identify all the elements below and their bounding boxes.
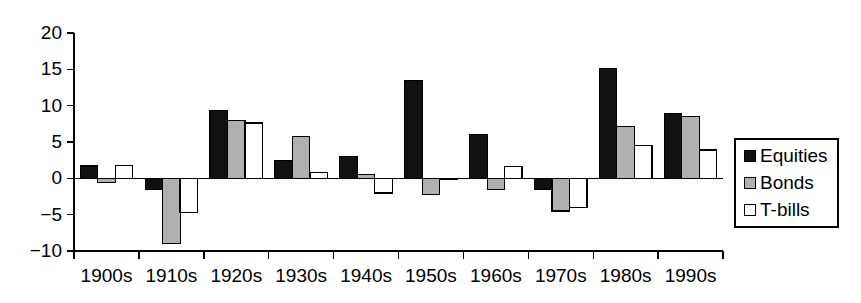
bar-t-bills-1930s	[310, 173, 328, 179]
bar-equities-1960s	[470, 135, 488, 179]
bar-equities-1920s	[210, 111, 228, 179]
y-axis-tick-label: 15	[41, 58, 62, 79]
legend-label-bonds: Bonds	[760, 172, 814, 193]
y-axis-tick-label: 20	[41, 22, 62, 43]
bar-t-bills-1970s	[570, 178, 588, 207]
bar-bonds-1930s	[292, 136, 310, 178]
bar-bonds-1910s	[163, 178, 181, 243]
bar-equities-1910s	[145, 178, 163, 189]
legend-swatch-bonds	[744, 178, 755, 189]
legend-label-equities: Equities	[760, 145, 828, 166]
y-axis-tick-label: −5	[40, 204, 62, 225]
legend-swatch-equities	[744, 151, 755, 162]
bars-layer	[80, 69, 717, 244]
bar-bonds-1940s	[357, 175, 375, 179]
x-axis-tick-label: 1900s	[81, 265, 133, 286]
bar-equities-1900s	[80, 166, 98, 178]
y-axis-tick-label: 0	[51, 167, 62, 188]
bar-equities-1970s	[535, 178, 553, 189]
bar-bonds-1950s	[422, 178, 440, 194]
legend-swatch-t-bills	[744, 205, 755, 216]
x-axis-tick-label: 1930s	[275, 265, 327, 286]
bar-bonds-1980s	[617, 127, 635, 179]
bar-equities-1950s	[405, 80, 423, 178]
y-axis-tick-label: −10	[30, 240, 62, 261]
x-axis-tick-label: 1960s	[470, 265, 522, 286]
x-axis-tick-label: 1980s	[600, 265, 652, 286]
chart-canvas: 20151050−5−10 1900s1910s1920s1930s1940s1…	[0, 0, 861, 303]
bar-t-bills-1940s	[375, 178, 393, 193]
bar-equities-1930s	[275, 161, 293, 178]
x-axis-tick-label: 1970s	[535, 265, 587, 286]
bar-chart-container: 20151050−5−10 1900s1910s1920s1930s1940s1…	[0, 0, 861, 303]
bar-t-bills-1990s	[699, 150, 717, 178]
bar-t-bills-1910s	[180, 178, 198, 212]
bar-equities-1940s	[340, 157, 358, 179]
bar-t-bills-1950s	[440, 178, 458, 179]
bar-bonds-1970s	[552, 178, 570, 211]
bar-t-bills-1960s	[505, 167, 522, 179]
y-axis-tick-label: 5	[51, 131, 62, 152]
x-axis-tick-label: 1920s	[210, 265, 262, 286]
x-axis: 1900s1910s1920s1930s1940s1950s1960s1970s…	[74, 251, 723, 286]
bar-equities-1990s	[664, 114, 682, 179]
bar-bonds-1960s	[487, 178, 505, 189]
chart-legend: EquitiesBondsT-bills	[735, 139, 838, 227]
bar-t-bills-1980s	[634, 146, 652, 179]
x-axis-tick-label: 1940s	[340, 265, 392, 286]
y-axis-tick-label: 10	[41, 95, 62, 116]
bar-bonds-1900s	[98, 178, 116, 182]
bar-t-bills-1900s	[115, 165, 133, 178]
x-axis-tick-label: 1990s	[665, 265, 717, 286]
x-axis-tick-label: 1910s	[146, 265, 198, 286]
bar-equities-1980s	[599, 69, 617, 179]
bar-bonds-1920s	[228, 120, 246, 178]
legend-label-t-bills: T-bills	[760, 199, 810, 220]
bar-t-bills-1920s	[245, 123, 263, 178]
x-axis-tick-label: 1950s	[405, 265, 457, 286]
bar-bonds-1990s	[682, 117, 700, 179]
